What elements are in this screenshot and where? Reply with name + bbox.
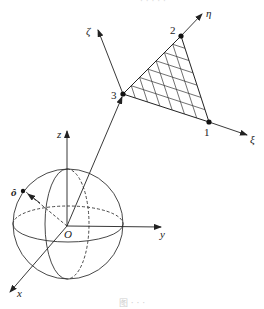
y-axis: [67, 226, 161, 227]
figure-caption: 图 · · ·: [0, 296, 264, 309]
zeta-axis: [98, 30, 123, 94]
eta-axis: [181, 14, 202, 36]
origin-label: O: [64, 228, 72, 240]
triangle-element-on-sphere-diagram: ζ η ξ 1 2 3 z y x O ô: [0, 0, 264, 309]
xi-label: ξ: [250, 133, 255, 146]
unit-vector: [21, 189, 40, 203]
x-axis: [10, 226, 67, 292]
unit-vector-label: ô: [11, 186, 17, 198]
y-axis-label: y: [159, 228, 165, 240]
triangle-grid: [131, 44, 205, 118]
xi-axis: [209, 122, 247, 135]
node-2: [178, 33, 183, 38]
triangle-element: [123, 36, 209, 122]
zeta-label: ζ: [86, 25, 92, 38]
z-axis-label: z: [56, 128, 62, 140]
global-axes: [10, 97, 161, 292]
position-vector: [67, 97, 122, 226]
node-2-label: 2: [170, 24, 176, 36]
node-1: [206, 119, 211, 124]
node-3-label: 3: [111, 89, 117, 101]
eta-label: η: [206, 7, 211, 19]
node-1-label: 1: [204, 126, 210, 138]
node-3: [120, 91, 125, 96]
nodes: [120, 33, 211, 124]
